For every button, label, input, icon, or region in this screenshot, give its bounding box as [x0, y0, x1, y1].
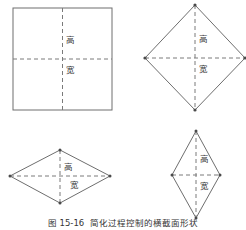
square-height-label: 高	[66, 35, 75, 45]
square-drawing: 高 宽	[0, 0, 123, 115]
diamond-vertex-left-dot	[143, 56, 146, 59]
caption-title: 简化过程控制的横截面形状	[90, 219, 198, 228]
wide-rhombus-drawing: 高 宽	[0, 115, 123, 215]
tall-rhombus-vertex-left-dot	[171, 174, 174, 177]
tall-rhombus-width-label: 宽	[200, 181, 209, 191]
wide-rhombus-vertex-bottom-dot	[59, 202, 62, 205]
figure-caption: 图 15-16 简化过程控制的横截面形状	[0, 219, 246, 230]
shape-square: 高 宽	[0, 0, 123, 115]
diamond-vertex-bottom-dot	[193, 108, 196, 111]
wide-rhombus-vertex-left-dot	[9, 175, 12, 178]
tall-rhombus-drawing: 高 宽	[123, 115, 246, 220]
tall-rhombus-vertex-right-dot	[219, 174, 222, 177]
caption-number: 图 15-16	[48, 219, 84, 228]
diamond-height-label: 高	[199, 34, 208, 44]
square-width-label: 宽	[66, 65, 75, 75]
tall-rhombus-height-label: 高	[200, 154, 209, 164]
wide-rhombus-vertex-right-dot	[109, 175, 112, 178]
figure-container: 高 宽 高 宽 高 宽	[0, 0, 246, 230]
wide-rhombus-height-label: 高	[64, 162, 73, 172]
shape-diamond: 高 宽	[123, 0, 246, 115]
diamond-vertex-top-dot	[193, 3, 196, 6]
shape-tall-rhombus: 高 宽	[123, 115, 246, 220]
wide-rhombus-width-label: 宽	[70, 180, 79, 190]
diamond-drawing: 高 宽	[123, 0, 246, 115]
diamond-width-label: 宽	[199, 64, 208, 74]
wide-rhombus-vertex-top-dot	[59, 149, 62, 152]
shape-wide-rhombus: 高 宽	[0, 115, 123, 215]
tall-rhombus-vertex-top-dot	[195, 130, 198, 133]
